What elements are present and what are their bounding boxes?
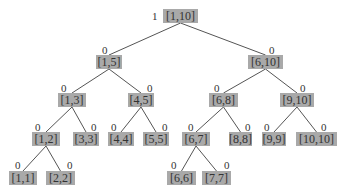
tree-node-n9_9: [9,9] [262,132,286,146]
tree-node-n3_3: [3,3] [73,132,99,146]
tree-edge [196,146,217,171]
tree-edge [297,107,317,132]
tree-node-n7_7: [7,7] [202,171,231,185]
tree-node-n1_5: [1,5] [96,55,122,69]
tree-node-n4_4: [4,4] [108,132,134,146]
node-flag: 0 [214,83,220,94]
tree-edge [224,69,266,93]
node-flag: 0 [111,122,117,133]
tree-edge [109,23,181,55]
node-flag: 0 [61,83,67,94]
node-flag: 0 [171,160,177,171]
tree-edge [46,107,72,132]
tree-node-n1_10: [1,10] [163,9,198,23]
tree-edge [109,69,141,93]
tree-edge [274,107,297,132]
node-flag: 0 [300,83,306,94]
tree-node-n4_5: [4,5] [128,93,154,107]
node-flag: 0 [224,160,230,171]
tree-node-n6_8: [6,8] [209,93,238,107]
tree-edge [72,69,109,93]
node-flag: 0 [102,45,108,56]
node-flag: 1 [152,11,158,22]
node-flag: 0 [147,83,153,94]
tree-node-n2_2: [2,2] [46,171,75,185]
tree-node-n5_5: [5,5] [143,132,169,146]
tree-edge [72,107,86,132]
tree-node-n9_10: [9,10] [280,93,314,107]
tree-edge [23,146,46,171]
tree-edge [266,69,298,93]
tree-node-n6_6: [6,6] [167,171,196,185]
tree-edge [46,146,61,171]
tree-node-n10_10: [10,10] [296,132,337,146]
node-flag: 0 [91,122,97,133]
tree-edge [141,107,156,132]
node-flag: 0 [245,122,251,133]
tree-node-n1_2: [1,2] [32,132,60,146]
node-flag: 0 [35,122,41,133]
node-flag: 0 [264,122,270,133]
tree-edge [224,107,241,132]
tree-edge [121,107,141,132]
tree-node-n1_1: [1,1] [9,171,37,185]
tree-node-n1_3: [1,3] [58,93,86,107]
tree-node-n8_8: [8,8] [229,132,252,146]
tree-node-n6_7: [6,7] [182,132,210,146]
node-flag: 0 [269,45,275,56]
tree-edge [196,107,224,132]
node-flag: 0 [162,122,168,133]
node-flag: 0 [15,160,21,171]
tree-edge [181,23,266,55]
tree-edge [182,146,197,171]
node-flag: 0 [321,122,327,133]
tree-node-n6_10: [6,10] [248,55,283,69]
node-flag: 0 [67,160,73,171]
node-flag: 0 [188,122,194,133]
